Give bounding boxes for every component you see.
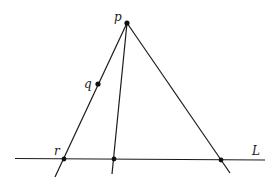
line-p-middle	[112, 23, 127, 174]
line-p-q-r	[55, 23, 127, 177]
geometry-diagram: p q r L	[0, 0, 278, 186]
label-p: p	[114, 10, 122, 24]
point-right-intersection	[219, 158, 224, 163]
label-q: q	[84, 77, 92, 91]
point-middle-intersection	[112, 157, 117, 162]
label-L: L	[251, 144, 260, 158]
label-r: r	[54, 144, 61, 158]
point-p	[124, 20, 129, 25]
point-q	[95, 81, 100, 86]
point-r	[62, 157, 67, 162]
line-p-right	[127, 23, 230, 173]
line-L	[15, 159, 265, 161]
